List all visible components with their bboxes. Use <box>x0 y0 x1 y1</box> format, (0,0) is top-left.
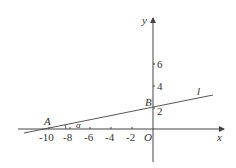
angle-arc <box>65 125 66 129</box>
angle-label: α <box>76 120 81 130</box>
coordinate-diagram: -10 -8 -6 -4 -2 O x y 2 4 6 A B l α <box>0 0 236 168</box>
x-tick-label: -2 <box>126 131 135 143</box>
y-axis-label: y <box>141 14 147 26</box>
y-tick-label: 2 <box>157 105 163 117</box>
y-tick-label: 4 <box>157 80 163 92</box>
x-tick-label: -4 <box>105 131 115 143</box>
x-axis-label: x <box>216 131 222 143</box>
x-tick-label: -6 <box>84 131 94 143</box>
x-tick-label: -10 <box>39 131 54 143</box>
x-tick-label: -8 <box>63 131 73 143</box>
point-a-label: A <box>43 115 51 127</box>
line-l-label: l <box>197 85 200 97</box>
point-b-label: B <box>145 96 152 108</box>
origin-label: O <box>144 131 152 143</box>
y-tick-label: 6 <box>157 58 163 70</box>
line-l <box>24 95 213 133</box>
